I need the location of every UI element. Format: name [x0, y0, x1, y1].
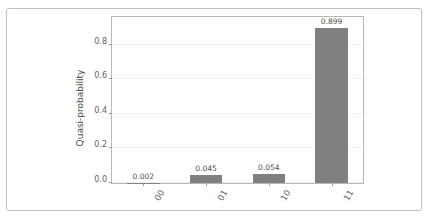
- clipped-text-artifact: · ·: [0, 0, 430, 4]
- y-axis-tick-mark: [109, 44, 112, 45]
- x-axis-tick-label: 11: [341, 188, 355, 202]
- y-axis-tick-mark: [109, 182, 112, 183]
- bar: 0.045: [190, 175, 223, 183]
- x-axis-tick-mark: [206, 183, 207, 186]
- y-axis-tick-label: 0.2: [94, 140, 107, 149]
- bar-value-label: 0.899: [321, 17, 342, 26]
- bar: 0.899: [315, 28, 348, 183]
- y-axis-title: Quasi-probability: [75, 24, 86, 192]
- y-axis-tick-label: 0.4: [94, 105, 107, 114]
- y-axis-tick-mark: [109, 113, 112, 114]
- bar-value-label: 0.054: [258, 163, 279, 172]
- y-axis-tick-label: 0.0: [94, 175, 107, 184]
- bar-chart: Quasi-probability 0.00.20.40.60.8 0.0020…: [7, 9, 423, 212]
- bar-value-label: 0.045: [195, 164, 216, 173]
- figure-card: Quasi-probability 0.00.20.40.60.8 0.0020…: [6, 8, 422, 211]
- y-axis-tick-label: 0.8: [94, 36, 107, 45]
- x-axis-tick-label: 01: [216, 188, 230, 202]
- y-axis-tick-label: 0.6: [94, 71, 107, 80]
- x-axis-tick-mark: [332, 183, 333, 186]
- y-axis-tick-mark: [109, 78, 112, 79]
- x-axis-tick-mark: [143, 183, 144, 186]
- y-axis-tick-mark: [109, 147, 112, 148]
- bar: 0.054: [253, 174, 286, 183]
- x-axis-tick-mark: [269, 183, 270, 186]
- plot-area: 0.00.20.40.60.8 0.0020.0450.0540.899 000…: [111, 16, 364, 184]
- bar-value-label: 0.002: [133, 172, 154, 181]
- x-axis-tick-label: 10: [278, 188, 292, 202]
- x-axis-tick-label: 00: [153, 188, 167, 202]
